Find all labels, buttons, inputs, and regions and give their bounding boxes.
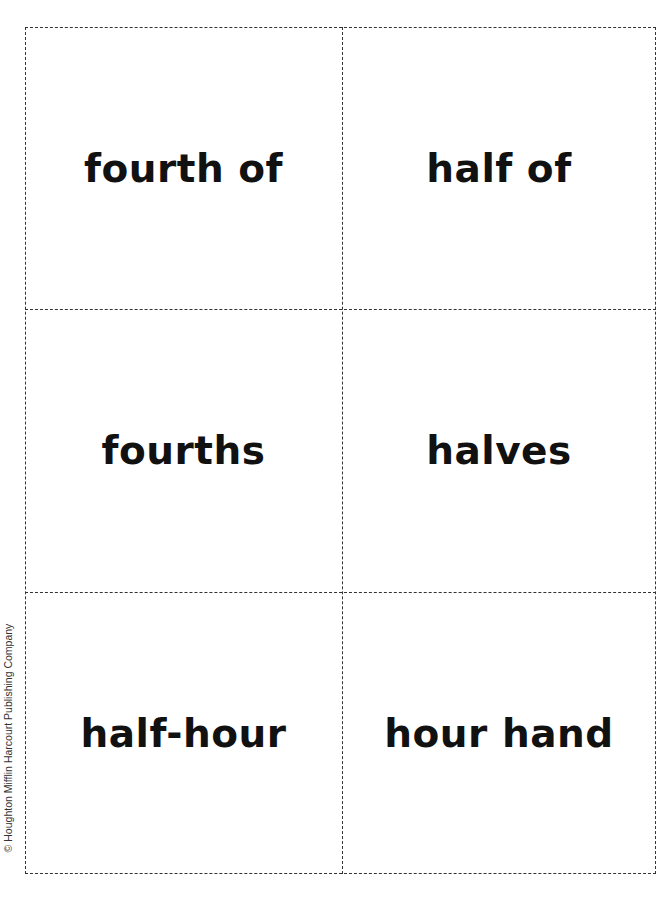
- card-label: half of: [426, 146, 571, 191]
- card-label: fourth of: [84, 146, 283, 191]
- card-label: hour hand: [384, 711, 613, 756]
- card-label: fourths: [102, 428, 266, 473]
- card-hour-hand: hour hand: [342, 592, 656, 874]
- card-half-hour: half-hour: [25, 592, 342, 874]
- card-label: half-hour: [81, 711, 287, 756]
- card-fourth-of: fourth of: [25, 27, 342, 309]
- card-fourths: fourths: [25, 309, 342, 592]
- card-halves: halves: [342, 309, 656, 592]
- copyright-credit: © Houghton Mifflin Harcourt Publishing C…: [2, 618, 14, 858]
- card-label: halves: [426, 428, 572, 473]
- card-half-of: half of: [342, 27, 656, 309]
